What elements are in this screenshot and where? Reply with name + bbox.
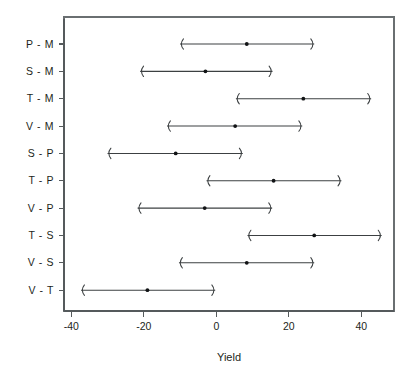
interval-estimate-point: [312, 234, 316, 238]
x-axis-tick-label: -20: [136, 320, 151, 332]
interval-row: [236, 94, 371, 104]
x-axis-tick-label: 0: [213, 320, 219, 332]
y-axis-tick-label: T - S: [28, 229, 54, 241]
interval-estimate-point: [146, 288, 150, 292]
interval-row: [138, 203, 273, 213]
y-axis-tick-label: S - P: [28, 147, 54, 159]
interval-estimate-point: [233, 124, 237, 128]
interval-estimate-point: [245, 42, 249, 46]
x-axis-tick-label: 20: [283, 320, 295, 332]
x-axis-tick-label: -40: [64, 320, 79, 332]
interval-estimate-point: [203, 206, 207, 210]
y-axis-tick-label: V - P: [28, 202, 54, 214]
interval-row: [167, 121, 302, 131]
interval-estimate-point: [174, 152, 178, 156]
interval-row: [247, 230, 381, 240]
interval-row: [207, 176, 342, 186]
confidence-interval-chart: P - MS - MT - MV - MS - PT - PV - PT - S…: [0, 0, 411, 389]
x-axis-label: Yield: [217, 351, 241, 363]
interval-estimate-point: [272, 179, 276, 183]
y-axis-tick-label: T - M: [27, 92, 54, 104]
interval-row: [140, 66, 272, 76]
y-axis-tick-label: P - M: [26, 38, 54, 50]
interval-row: [108, 148, 243, 158]
y-axis-tick-label: S - M: [26, 65, 54, 77]
y-axis-tick-label: V - S: [28, 256, 54, 268]
interval-row: [179, 258, 314, 268]
y-axis-tick-label: V - T: [28, 284, 54, 296]
interval-row: [81, 285, 215, 295]
interval-estimate-point: [204, 69, 208, 73]
plot-canvas: P - MS - MT - MV - MS - PT - PV - PT - S…: [0, 0, 411, 389]
plot-panel-border: [64, 17, 394, 311]
interval-row: [180, 39, 314, 49]
x-axis-tick-label: 40: [356, 320, 368, 332]
y-axis-tick-label: V - M: [26, 120, 54, 132]
y-axis-tick-label: T - P: [28, 174, 54, 186]
interval-estimate-point: [245, 261, 249, 265]
interval-estimate-point: [301, 97, 305, 101]
